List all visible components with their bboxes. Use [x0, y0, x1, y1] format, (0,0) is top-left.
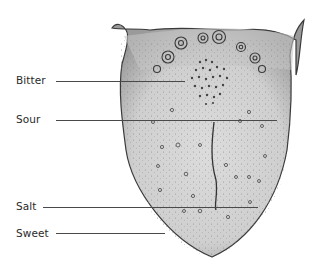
- leader-line-sour: [56, 120, 277, 121]
- label-bitter: Bitter: [16, 74, 46, 86]
- leader-line-sweet: [56, 233, 165, 234]
- label-sweet: Sweet: [16, 227, 49, 239]
- leader-line-salt: [43, 207, 258, 208]
- label-sour: Sour: [16, 113, 40, 125]
- label-salt: Salt: [16, 200, 37, 212]
- leader-line-bitter: [56, 81, 185, 82]
